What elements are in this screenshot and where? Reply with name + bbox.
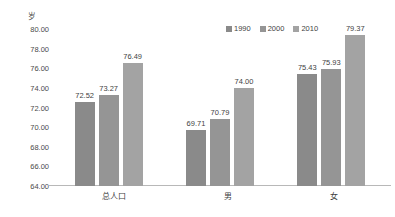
bar-value-label: 72.52: [75, 91, 94, 100]
legend-swatch-icon: [226, 26, 232, 32]
legend-label: 1990: [234, 24, 251, 33]
plot-area: 80.0078.0076.0074.0072.0070.0068.0066.00…: [53, 29, 387, 186]
category-label-group: 总人口男女: [53, 190, 387, 201]
bar-slot: 73.27: [99, 29, 119, 186]
bar-chart: 岁 80.0078.0076.0074.0072.0070.0068.0066.…: [0, 0, 395, 217]
bar-slot: 70.79: [210, 29, 230, 186]
bar[interactable]: [99, 95, 119, 186]
y-axis-tick-label: 74.00: [30, 83, 49, 92]
bar-value-label: 75.93: [322, 58, 341, 67]
y-axis-tick-label: 66.00: [30, 162, 49, 171]
y-axis-tick-label: 64.00: [30, 182, 49, 191]
bar-value-label: 73.27: [99, 84, 118, 93]
y-axis-tick-label: 78.00: [30, 44, 49, 53]
bar-value-label: 79.37: [346, 24, 365, 33]
bar-group: 69.7170.7974.00: [186, 29, 254, 186]
chart-legend: 199020002010: [226, 24, 318, 33]
bar-value-label: 69.71: [187, 119, 206, 128]
y-axis-tick-label: 80.00: [30, 25, 49, 34]
legend-swatch-icon: [293, 26, 299, 32]
bar-group: 72.5273.2776.49: [75, 29, 143, 186]
category-label-2: 女: [330, 190, 338, 201]
category-label-1: 男: [224, 190, 232, 201]
bar-value-label: 74.00: [235, 77, 254, 86]
bar[interactable]: [345, 35, 365, 186]
bar-slot: 74.00: [234, 29, 254, 186]
y-axis-tick-label: 76.00: [30, 64, 49, 73]
bar-group-container: 72.5273.2776.4969.7170.7974.0075.4375.93…: [53, 29, 387, 186]
legend-item-2010[interactable]: 2010: [293, 24, 318, 33]
bar-value-label: 76.49: [123, 52, 142, 61]
bar-slot: 75.43: [297, 29, 317, 186]
bar[interactable]: [321, 69, 341, 186]
bar[interactable]: [123, 63, 143, 186]
y-axis-tick-label: 72.00: [30, 103, 49, 112]
bar[interactable]: [75, 102, 95, 186]
bar-slot: 69.71: [186, 29, 206, 186]
bar-value-label: 70.79: [211, 108, 230, 117]
legend-label: 2000: [268, 24, 285, 33]
legend-swatch-icon: [260, 26, 266, 32]
bar[interactable]: [297, 74, 317, 186]
legend-item-2000[interactable]: 2000: [260, 24, 285, 33]
bar-value-label: 75.43: [298, 63, 317, 72]
bar[interactable]: [186, 130, 206, 186]
bar[interactable]: [210, 119, 230, 186]
legend-item-1990[interactable]: 1990: [226, 24, 251, 33]
bar-slot: 79.37: [345, 29, 365, 186]
bar-slot: 75.93: [321, 29, 341, 186]
y-axis-unit-label: 岁: [28, 10, 35, 21]
legend-label: 2010: [301, 24, 318, 33]
category-label-0: 总人口: [102, 190, 126, 201]
bar-group: 75.4375.9379.37: [297, 29, 365, 186]
bar-slot: 76.49: [123, 29, 143, 186]
y-axis-tick-label: 70.00: [30, 123, 49, 132]
bar-slot: 72.52: [75, 29, 95, 186]
y-axis-tick-label: 68.00: [30, 142, 49, 151]
bar[interactable]: [234, 88, 254, 186]
